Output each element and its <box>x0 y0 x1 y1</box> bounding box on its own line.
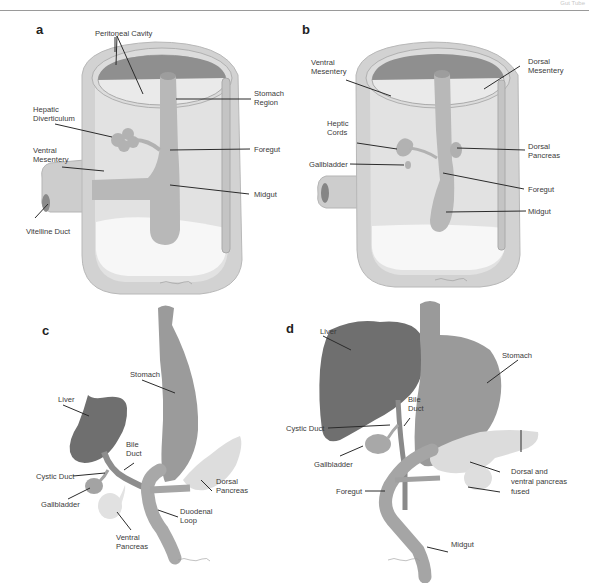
label-ventral-mesentery-line1: Ventral <box>33 146 57 155</box>
label-cystic-duct-d: Cystic Duct <box>286 424 325 433</box>
label-dorsal-pancreas-c-line1: Dorsal <box>216 477 238 486</box>
gut-tube-d <box>385 450 432 577</box>
label-fused-pancreas-line2: ventral pancreas <box>511 477 567 486</box>
panel-d-letter: d <box>286 321 294 336</box>
label-ventral-mesentery-line2: Mesentery <box>33 155 69 164</box>
liver-d <box>319 321 425 441</box>
label-heptic-cords-line1: Heptic <box>327 119 349 128</box>
label-stomach-d: Stomach <box>502 351 532 360</box>
dorsal-pancreas-b <box>450 142 462 158</box>
label-midgut-d: Midgut <box>451 540 475 549</box>
panel-d: d Liver Stomach Bile Duct Cystic Duct <box>286 301 567 577</box>
vitelline-opening-b <box>321 183 329 203</box>
label-dorsal-pancreas-b-line1: Dorsal <box>528 142 550 151</box>
label-ventral-mesentery-b-line2: Mesentery <box>311 67 347 76</box>
label-bile-duct-d-line1: Bile <box>408 395 421 404</box>
label-foregut: Foregut <box>254 145 281 154</box>
label-fused-pancreas-line1: Dorsal and <box>511 467 548 476</box>
label-foregut-b: Foregut <box>528 185 555 194</box>
liver-c <box>70 395 127 463</box>
gut-lumen-b <box>434 70 450 78</box>
ventral-pancreas-lobe-d <box>464 466 492 490</box>
dorsal-tube-a <box>222 78 230 253</box>
panel-a: a <box>26 22 284 294</box>
label-dorsal-pancreas-c-line2: Pancreas <box>216 486 248 495</box>
label-ventral-pancreas-line1: Ventral <box>116 533 140 542</box>
label-liver-c: Liver <box>58 395 75 404</box>
label-bile-duct-d-line2: Duct <box>408 404 425 413</box>
bile-duct-d <box>398 400 405 510</box>
label-heptic-cords-line2: Cords <box>327 128 347 137</box>
panel-c-letter: c <box>42 323 49 338</box>
label-peritoneal-cavity: Peritoneal Cavity <box>95 29 153 38</box>
panel-a-letter: a <box>36 22 44 37</box>
label-dorsal-mesentery-line2: Mesentery <box>528 66 564 75</box>
label-vitelline-duct: Vitelline Duct <box>26 227 71 236</box>
label-dorsal-pancreas-b-line2: Pancreas <box>528 151 560 160</box>
label-gallbladder-d: Gallbladder <box>314 460 353 469</box>
stomach-c <box>158 306 198 483</box>
label-stomach-region-line1: Stomach <box>254 89 284 98</box>
label-stomach-region-line2: Region <box>254 98 278 107</box>
panel-b: b Ventral Mesentery Dorsal <box>302 22 564 287</box>
label-cystic-duct-c: Cystic Duct <box>36 472 75 481</box>
label-duodenal-loop-line2: Loop <box>180 516 197 525</box>
label-dorsal-mesentery-line1: Dorsal <box>528 57 550 66</box>
panel-b-letter: b <box>302 22 310 37</box>
label-hepatic-diverticulum-line1: Hepatic <box>33 105 59 114</box>
label-duodenal-loop-line1: Duodenal <box>180 507 213 516</box>
dorsal-tube-b <box>498 80 505 250</box>
panel-c: c Stomach Liver Bile Duct Cystic Duct <box>36 306 248 562</box>
label-stomach-c: Stomach <box>130 370 160 379</box>
label-bile-duct-c-line2: Duct <box>126 449 143 458</box>
label-bile-duct-c-line1: Bile <box>126 440 139 449</box>
label-liver-d: Liver <box>320 327 337 336</box>
gut-lumen-a <box>160 72 176 80</box>
label-foregut-d: Foregut <box>336 487 363 496</box>
label-ventral-mesentery-b-line1: Ventral <box>311 58 335 67</box>
label-hepatic-diverticulum-line2: Diverticulum <box>33 114 75 123</box>
label-midgut-b: Midgut <box>528 207 552 216</box>
label-gallbladder-b: Gallbladder <box>309 160 348 169</box>
artist-signature-c <box>178 558 210 561</box>
ventral-pancreas-c <box>98 493 122 519</box>
label-ventral-pancreas-line2: Pancreas <box>116 542 148 551</box>
embryology-figure: a <box>0 0 589 583</box>
label-fused-pancreas-line3: fused <box>511 487 530 496</box>
label-midgut: Midgut <box>254 190 278 199</box>
label-gallbladder-c: Gallbladder <box>41 500 80 509</box>
